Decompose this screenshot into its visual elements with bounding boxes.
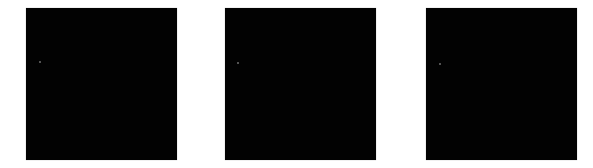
black-panel-1 [26,8,177,160]
black-panel-3 [426,8,577,160]
speck-dot [237,62,239,64]
black-panel-2 [225,8,376,160]
speck-dot [439,63,441,65]
speck-dot [39,61,41,63]
